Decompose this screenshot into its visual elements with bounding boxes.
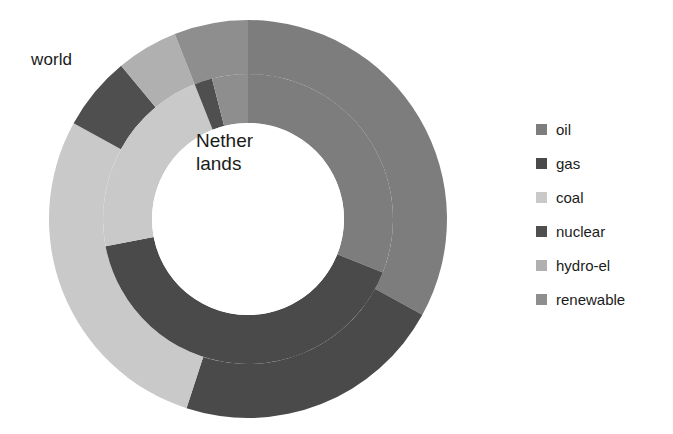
donut-chart-figure: world Nether lands oilgascoalnuclearhydr… [0,0,673,434]
outer-ring-label: world [31,50,72,70]
legend-item-label: renewable [556,291,625,308]
legend-item-label: coal [556,189,584,206]
legend-swatch-icon [536,124,547,135]
legend-item-label: gas [556,155,580,172]
legend-item-nuclear[interactable]: nuclear [536,214,673,248]
legend-swatch-icon [536,158,547,169]
legend-swatch-icon [536,192,547,203]
legend-swatch-icon [536,260,547,271]
legend-item-label: oil [556,121,571,138]
chart-plot-area: world Nether lands [0,0,470,434]
legend-swatch-icon [536,226,547,237]
legend: oilgascoalnuclearhydro-elrenewable [536,112,673,316]
legend-item-label: nuclear [556,223,605,240]
legend-item-label: hydro-el [556,257,610,274]
legend-item-renewable[interactable]: renewable [536,282,673,316]
legend-swatch-icon [536,294,547,305]
legend-item-oil[interactable]: oil [536,112,673,146]
legend-item-hydro-el[interactable]: hydro-el [536,248,673,282]
legend-item-gas[interactable]: gas [536,146,673,180]
center-label: Nether lands [196,129,316,175]
legend-item-coal[interactable]: coal [536,180,673,214]
